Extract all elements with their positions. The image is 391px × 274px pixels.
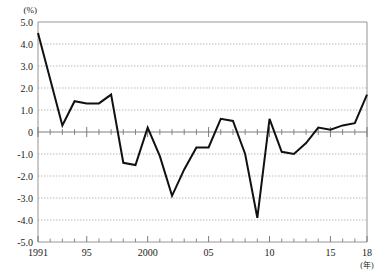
x-tick-label: 10 (265, 247, 275, 258)
y-tick-label: 1.0 (21, 105, 34, 116)
chart-canvas: 5.04.03.02.01.00-1.0-2.0-3.0-4.0-5.0 199… (0, 0, 391, 274)
x-tick-label: 15 (325, 247, 335, 258)
y-axis-tick-labels: 5.04.03.02.01.00-1.0-2.0-3.0-4.0-5.0 (17, 17, 33, 248)
y-tick-label: 2.0 (21, 83, 34, 94)
y-tick-label: -4.0 (17, 215, 33, 226)
y-tick-label: -1.0 (17, 149, 33, 160)
y-tick-label: 4.0 (21, 39, 34, 50)
x-tick-label: 2000 (138, 247, 158, 258)
x-tick-label: 95 (82, 247, 92, 258)
x-axis-tick-labels: 199195200005101518 (28, 247, 372, 258)
x-tick-label: 1991 (28, 247, 48, 258)
y-tick-label: 3.0 (21, 61, 34, 72)
x-axis-unit-label: (年) (360, 260, 374, 270)
y-axis-unit-label: (%) (24, 5, 38, 15)
x-tick-label: 05 (204, 247, 214, 258)
y-tick-label: -3.0 (17, 193, 33, 204)
y-tick-label: -5.0 (17, 237, 33, 248)
y-tick-label: 5.0 (21, 17, 34, 28)
line-chart: 5.04.03.02.01.00-1.0-2.0-3.0-4.0-5.0 199… (0, 0, 391, 274)
x-axis-tick-marks (38, 236, 367, 242)
data-series-line (38, 33, 367, 218)
y-tick-label: 0 (28, 127, 33, 138)
x-tick-label: 18 (362, 247, 372, 258)
y-tick-label: -2.0 (17, 171, 33, 182)
